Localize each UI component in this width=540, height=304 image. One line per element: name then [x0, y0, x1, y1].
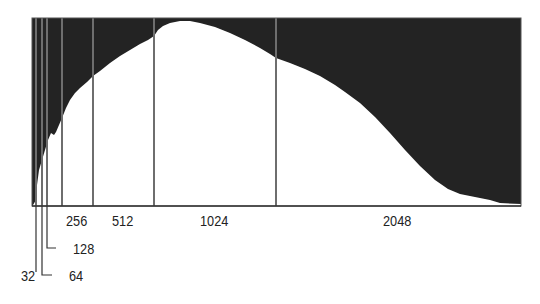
- tick-label-64: 64: [69, 268, 83, 283]
- tick-label-1024: 1024: [200, 213, 228, 228]
- label-leaders: [36, 206, 56, 275]
- tick-label-128: 128: [73, 241, 94, 256]
- histogram-chart: [0, 0, 540, 304]
- tick-label-2048: 2048: [383, 213, 411, 228]
- tick-label-256: 256: [66, 213, 87, 228]
- tick-label-512: 512: [112, 213, 133, 228]
- tick-label-32: 32: [21, 268, 35, 283]
